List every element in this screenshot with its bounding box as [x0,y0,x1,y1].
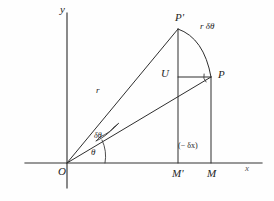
segment-O-to-Pprime [67,29,178,163]
y-axis-label: y [60,4,65,15]
point-label-p: P [218,69,225,80]
point-label-origin: O [58,166,66,177]
x-axis-label: x [245,164,249,173]
point-label-m-prime: M' [172,168,184,179]
point-label-p-prime: P' [175,12,184,23]
delta-theta-label: δθ [94,132,102,140]
figure-canvas: y x O P' P U M' M r r δθ δθ θ (− δx) [0,0,274,201]
angle-arc-theta [102,140,106,163]
arc-length-label: r δθ [200,22,214,31]
arc-Pprime-to-P [178,29,211,77]
point-label-m: M [207,168,216,179]
angle-tick-upper [114,123,119,127]
point-label-u: U [161,68,169,79]
delta-x-label: (− δx) [178,142,198,150]
radius-label: r [96,86,100,95]
theta-label: θ [91,148,95,157]
segment-O-to-P [67,77,211,163]
geometry-diagram [0,0,274,201]
